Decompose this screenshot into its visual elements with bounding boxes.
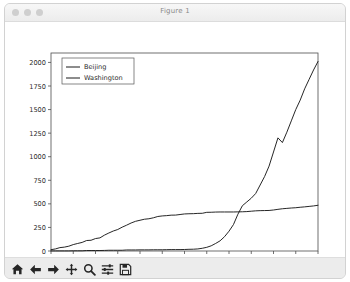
subplots-button[interactable] [99, 261, 116, 278]
floppy-disk-icon [119, 263, 132, 276]
y-tick-label: 500 [33, 200, 46, 208]
legend-label-washington: Washington [84, 74, 123, 82]
figure-window: Figure 1 0250500750100012501500175020000… [4, 3, 346, 279]
pan-button[interactable] [63, 261, 80, 278]
y-tick-label: 750 [33, 177, 46, 185]
y-tick-label: 1750 [29, 83, 46, 91]
window-title: Figure 1 [5, 7, 345, 15]
zoom-button[interactable] [81, 261, 98, 278]
forward-button[interactable] [45, 261, 62, 278]
y-tick-label: 1250 [29, 130, 46, 138]
back-button[interactable] [27, 261, 44, 278]
figure-canvas[interactable]: 02505007501000125015001750200001.2201.27… [5, 22, 345, 257]
home-button[interactable] [9, 261, 26, 278]
y-tick-label: 1000 [29, 153, 46, 161]
y-tick-label: 2000 [29, 59, 46, 67]
legend-label-beijing: Beijing [84, 63, 106, 71]
arrow-left-icon [29, 263, 42, 276]
magnifier-icon [83, 263, 96, 276]
y-tick-label: 0 [42, 248, 46, 256]
home-icon [11, 263, 24, 276]
sliders-icon [101, 263, 114, 276]
navigation-toolbar [5, 257, 345, 279]
plot-area: 02505007501000125015001750200001.2201.27… [5, 22, 346, 257]
y-tick-label: 1500 [29, 106, 46, 114]
y-tick-label: 250 [33, 224, 46, 232]
arrow-right-icon [47, 263, 60, 276]
save-button[interactable] [117, 261, 134, 278]
move-cross-icon [65, 263, 78, 276]
window-titlebar[interactable]: Figure 1 [5, 4, 345, 22]
